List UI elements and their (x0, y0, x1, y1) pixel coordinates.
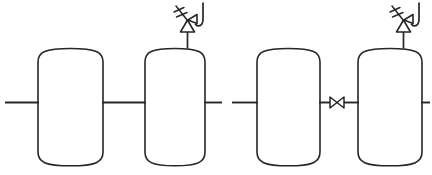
vessel-2[interactable] (145, 49, 205, 166)
check-valve[interactable] (330, 97, 344, 108)
vessel-2-shell (145, 49, 205, 166)
relief-valve-vessel-2-spring-tick-upper-icon (174, 8, 184, 13)
vessel-3-shell (257, 49, 320, 166)
vessel-1-shell (38, 49, 103, 166)
vessel-4-shell (358, 49, 422, 166)
check-valve-left-triangle-icon (330, 97, 337, 108)
check-valve-right-triangle-icon (337, 97, 344, 108)
relief-valve-vessel-4[interactable] (390, 3, 419, 49)
relief-valve-vessel-2[interactable] (174, 3, 203, 49)
diagram-svg: Process Vessel Train Diagram (0, 0, 432, 175)
relief-valve-vessel-4-spring-tick-upper-icon (390, 8, 400, 13)
vessel-3[interactable] (257, 49, 320, 166)
process-diagram-canvas: Process Vessel Train Diagram (0, 0, 432, 175)
vessel-4[interactable] (358, 49, 422, 166)
vessel-1[interactable] (38, 49, 103, 166)
